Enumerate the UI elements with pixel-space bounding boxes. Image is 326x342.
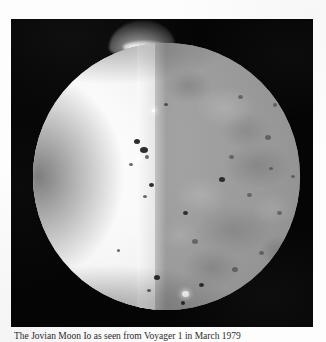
figure-caption: The Jovian Moon Io as seen from Voyager … (14, 331, 314, 342)
figure-photograph (11, 19, 313, 327)
io-limb-darkening (33, 43, 300, 310)
scanned-page: The Jovian Moon Io as seen from Voyager … (0, 0, 326, 342)
io-disk (33, 43, 300, 310)
